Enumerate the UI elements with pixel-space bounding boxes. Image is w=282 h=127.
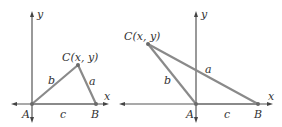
y-axis-down-arrow-icon: [30, 117, 34, 123]
y-axis-up-arrow-icon: [30, 11, 34, 17]
vertex-c-label: C(x, y): [62, 51, 98, 64]
figure-right: y x C(x, y) a b A c B: [119, 8, 275, 123]
side-b: [148, 44, 196, 104]
vertex-b-label: B: [90, 108, 99, 121]
side-c-label: c: [224, 108, 230, 121]
y-axis-up-arrow-icon: [194, 11, 198, 17]
x-axis-label: x: [104, 90, 111, 103]
y-axis-label: y: [200, 8, 208, 21]
vertex-b-dot: [256, 102, 260, 106]
x-axis-left-arrow-icon: [119, 102, 125, 106]
figure-left: y x C(x, y) b a A c B: [11, 8, 111, 123]
vertex-a-dot: [194, 102, 198, 106]
vertex-a-label: A: [185, 108, 194, 121]
x-axis-label: x: [268, 90, 275, 103]
side-b-label: b: [48, 74, 55, 87]
y-axis-down-arrow-icon: [194, 117, 198, 123]
x-axis-left-arrow-icon: [11, 102, 17, 106]
vertex-b-label: B: [253, 108, 262, 121]
vertex-a-dot: [30, 102, 34, 106]
y-axis-label: y: [36, 8, 44, 21]
side-b-label: b: [164, 74, 171, 87]
vertex-c-label: C(x, y): [124, 30, 160, 43]
side-c-label: c: [60, 108, 66, 121]
vertex-b-dot: [94, 102, 98, 106]
diagram-canvas: y x C(x, y) b a A c B y x C(x, y) a b A …: [0, 0, 282, 127]
side-a-label: a: [205, 63, 212, 76]
vertex-a-label: A: [21, 108, 30, 121]
side-a-label: a: [89, 75, 96, 88]
